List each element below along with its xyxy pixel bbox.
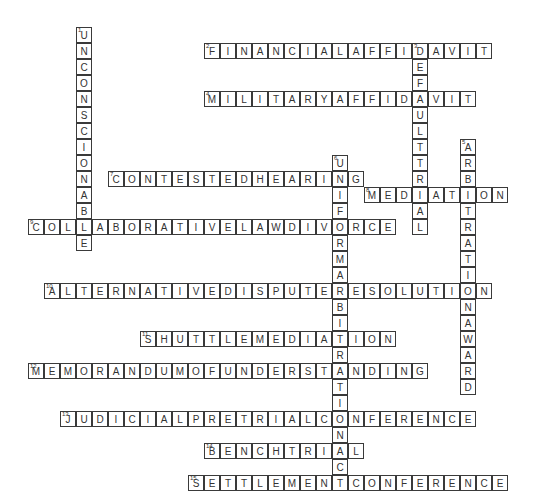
crossword-cell[interactable]: A [428, 43, 444, 59]
crossword-cell[interactable]: A [76, 187, 92, 203]
crossword-cell[interactable]: N [236, 443, 252, 459]
crossword-cell[interactable]: D [220, 283, 236, 299]
crossword-cell[interactable]: A [252, 43, 268, 59]
crossword-cell[interactable]: I [300, 43, 316, 59]
crossword-cell[interactable]: O [460, 283, 476, 299]
crossword-cell[interactable]: F [380, 43, 396, 59]
crossword-cell[interactable]: H [268, 443, 284, 459]
crossword-cell[interactable]: I [460, 187, 476, 203]
crossword-cell[interactable]: I [380, 91, 396, 107]
crossword-cell[interactable]: A [348, 43, 364, 59]
crossword-cell[interactable]: A [252, 219, 268, 235]
crossword-cell[interactable]: I [172, 283, 188, 299]
crossword-cell[interactable]: 2F [204, 43, 220, 59]
crossword-cell[interactable]: E [300, 475, 316, 491]
crossword-cell[interactable]: A [460, 315, 476, 331]
crossword-cell[interactable]: T [156, 283, 172, 299]
crossword-cell[interactable]: O [124, 171, 140, 187]
crossword-cell[interactable]: 1U [76, 27, 92, 43]
crossword-cell[interactable]: I [252, 91, 268, 107]
crossword-cell[interactable]: M [332, 251, 348, 267]
crossword-cell[interactable]: I [300, 331, 316, 347]
crossword-cell[interactable]: T [412, 139, 428, 155]
crossword-cell[interactable]: N [332, 427, 348, 443]
crossword-cell[interactable]: 6U [332, 155, 348, 171]
crossword-cell[interactable]: T [444, 187, 460, 203]
crossword-cell[interactable]: N [492, 187, 508, 203]
crossword-cell[interactable]: R [300, 171, 316, 187]
crossword-cell[interactable]: E [268, 475, 284, 491]
crossword-cell[interactable]: T [204, 171, 220, 187]
crossword-cell[interactable]: A [460, 235, 476, 251]
crossword-cell[interactable]: E [492, 475, 508, 491]
crossword-cell[interactable]: 4M [204, 91, 220, 107]
crossword-cell[interactable]: N [332, 171, 348, 187]
crossword-cell[interactable]: S [364, 283, 380, 299]
crossword-cell[interactable]: E [268, 363, 284, 379]
crossword-cell[interactable]: I [444, 283, 460, 299]
crossword-cell[interactable]: C [124, 411, 140, 427]
crossword-cell[interactable]: V [316, 219, 332, 235]
crossword-cell[interactable]: L [300, 411, 316, 427]
crossword-cell[interactable]: A [316, 331, 332, 347]
crossword-cell[interactable]: I [460, 43, 476, 59]
crossword-cell[interactable]: A [284, 411, 300, 427]
crossword-cell[interactable]: F [348, 91, 364, 107]
crossword-cell[interactable]: E [76, 235, 92, 251]
crossword-cell[interactable]: A [460, 347, 476, 363]
crossword-cell[interactable]: O [380, 283, 396, 299]
crossword-cell[interactable]: I [140, 411, 156, 427]
crossword-cell[interactable]: G [412, 363, 428, 379]
crossword-cell[interactable]: A [108, 363, 124, 379]
crossword-cell[interactable]: L [412, 123, 428, 139]
crossword-cell[interactable]: S [300, 363, 316, 379]
crossword-cell[interactable]: N [76, 91, 92, 107]
crossword-cell[interactable]: U [76, 411, 92, 427]
crossword-cell[interactable]: N [236, 43, 252, 59]
crossword-cell[interactable]: A [156, 411, 172, 427]
crossword-cell[interactable]: N [460, 299, 476, 315]
crossword-cell[interactable]: T [236, 475, 252, 491]
crossword-cell[interactable]: I [268, 411, 284, 427]
crossword-cell[interactable]: I [220, 43, 236, 59]
crossword-cell[interactable]: T [332, 475, 348, 491]
crossword-cell[interactable]: E [412, 475, 428, 491]
crossword-cell[interactable]: L [332, 43, 348, 59]
crossword-cell[interactable]: I [332, 395, 348, 411]
crossword-cell[interactable]: E [220, 443, 236, 459]
crossword-cell[interactable]: 14B [204, 443, 220, 459]
crossword-cell[interactable]: E [316, 283, 332, 299]
crossword-cell[interactable]: E [204, 475, 220, 491]
crossword-cell[interactable]: I [316, 171, 332, 187]
crossword-cell[interactable]: I [76, 139, 92, 155]
crossword-cell[interactable]: A [284, 91, 300, 107]
crossword-cell[interactable]: I [220, 91, 236, 107]
crossword-cell[interactable]: I [332, 315, 348, 331]
crossword-cell[interactable]: O [332, 219, 348, 235]
crossword-cell[interactable]: N [380, 475, 396, 491]
crossword-cell[interactable]: F [332, 203, 348, 219]
crossword-cell[interactable]: 7C [108, 171, 124, 187]
crossword-cell[interactable]: L [172, 411, 188, 427]
crossword-cell[interactable]: 11S [140, 331, 156, 347]
crossword-cell[interactable]: 15S [188, 475, 204, 491]
crossword-cell[interactable]: E [204, 283, 220, 299]
crossword-cell[interactable]: C [476, 475, 492, 491]
crossword-cell[interactable]: A [332, 91, 348, 107]
crossword-cell[interactable]: N [124, 283, 140, 299]
crossword-cell[interactable]: C [332, 459, 348, 475]
crossword-cell[interactable]: N [460, 475, 476, 491]
crossword-cell[interactable]: R [108, 283, 124, 299]
crossword-cell[interactable]: O [44, 219, 60, 235]
crossword-cell[interactable]: I [300, 219, 316, 235]
crossword-cell[interactable]: 3D [412, 43, 428, 59]
crossword-cell[interactable]: T [300, 283, 316, 299]
crossword-cell[interactable]: R [348, 219, 364, 235]
crossword-cell[interactable]: D [92, 411, 108, 427]
crossword-cell[interactable]: B [76, 203, 92, 219]
crossword-cell[interactable]: B [108, 219, 124, 235]
crossword-cell[interactable]: 5A [460, 139, 476, 155]
crossword-cell[interactable]: N [124, 363, 140, 379]
crossword-cell[interactable]: R [460, 363, 476, 379]
crossword-cell[interactable]: T [76, 283, 92, 299]
